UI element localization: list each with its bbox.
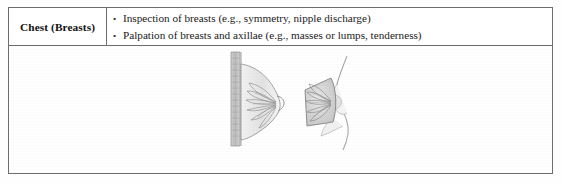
table-cell-body-region: Chest (Breasts): [9, 8, 107, 45]
breast-anatomy-illustration: [207, 46, 387, 154]
illustration-area: [9, 46, 552, 173]
table-row-chest-breasts: Chest (Breasts) • Inspection of breasts …: [9, 8, 552, 46]
bullet-icon: •: [113, 11, 123, 27]
exam-item-palpation: Palpation of breasts and axillae (e.g., …: [123, 27, 546, 43]
list-item: • Palpation of breasts and axillae (e.g.…: [113, 27, 546, 44]
table-cell-exam-items: • Inspection of breasts (e.g., symmetry,…: [107, 8, 552, 45]
list-item: • Inspection of breasts (e.g., symmetry,…: [113, 10, 546, 27]
bullet-icon: •: [113, 28, 123, 44]
exam-item-inspection: Inspection of breasts (e.g., symmetry, n…: [123, 10, 546, 26]
figure-sagittal: [231, 52, 284, 146]
table-row-illustration: [9, 46, 552, 173]
chest-wall: [231, 52, 240, 146]
body-region-label: Chest (Breasts): [20, 21, 95, 33]
physical-exam-table: Chest (Breasts) • Inspection of breasts …: [8, 7, 553, 174]
figure-oblique: [305, 56, 348, 150]
page-root: Chest (Breasts) • Inspection of breasts …: [0, 0, 562, 184]
